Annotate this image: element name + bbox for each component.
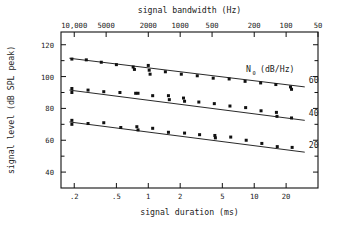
x-axis-title-top: signal bandwidth (Hz) [138,5,242,15]
fit-line-n0-20 [69,122,304,152]
legend-title-n: N [246,64,251,74]
x-tick-label-bottom: 1 [146,192,150,201]
data-point-n0-40 [275,115,278,118]
data-point-n0-40 [228,105,231,108]
data-point-n0-60 [290,88,293,91]
data-point-n0-60 [115,63,118,66]
y-tick-label: 120 [41,41,54,50]
data-point-n0-40 [118,91,121,94]
data-point-n0-20 [291,146,294,149]
data-point-n0-60 [85,58,88,61]
data-point-n0-40 [182,97,185,100]
data-point-n0-40 [70,87,73,90]
data-point-n0-20 [151,127,154,130]
x-axis-title-bottom: signal duration (ms) [140,207,239,217]
data-point-n0-40 [183,100,186,103]
data-point-n0-20 [260,142,263,145]
x-tick-label-top: 1000 [172,21,189,30]
x-tick-label-top: 5000 [97,21,114,30]
data-point-n0-20 [135,125,138,128]
data-point-n0-40 [167,94,170,97]
series-label-n0-20: 20 [309,140,319,150]
data-point-n0-20 [167,131,170,134]
data-point-n0-20 [137,128,140,131]
x-tick-label-top: 10,000 [61,21,87,30]
plot-frame [61,32,318,188]
legend-title-subscript: 0 [253,70,256,76]
data-point-n0-20 [198,133,201,136]
data-point-n0-40 [213,102,216,105]
x-tick-label-top: 500 [206,21,219,30]
data-point-n0-40 [168,98,171,101]
data-point-n0-60 [133,68,136,71]
data-point-n0-40 [197,101,200,104]
data-point-n0-40 [260,109,263,112]
data-point-n0-40 [151,94,154,97]
data-point-n0-20 [119,126,122,129]
data-point-n0-20 [276,145,279,148]
x-tick-label-top: 100 [280,21,293,30]
data-point-n0-20 [70,123,73,126]
data-point-n0-20 [245,139,248,142]
y-tick-label: 40 [45,168,54,177]
legend-title-units: (dB/Hz) [260,64,295,74]
data-point-n0-60 [196,74,199,77]
data-point-n0-20 [229,136,232,139]
x-tick-label-bottom: .2 [70,192,79,201]
series-label-n0-40: 40 [309,108,319,118]
fit-line-n0-40 [69,90,304,120]
data-point-n0-20 [87,122,90,125]
data-point-n0-40 [275,111,278,114]
x-tick-label-bottom: 10 [250,192,259,201]
data-point-n0-40 [87,89,90,92]
y-tick-label: 100 [41,73,54,82]
data-point-n0-40 [137,92,140,95]
y-tick-label: 60 [45,136,54,145]
signal-level-vs-duration-chart: .2.5125102010,00050002000100050020010050… [0,0,345,235]
data-point-n0-60 [212,77,215,80]
data-point-n0-40 [102,90,105,93]
data-point-n0-60 [259,81,262,84]
data-point-n0-20 [214,136,217,139]
data-point-n0-60 [180,73,183,76]
x-tick-label-bottom: 20 [282,192,291,201]
figure-container: .2.5125102010,00050002000100050020010050… [0,0,345,235]
x-tick-label-bottom: 2 [178,192,182,201]
x-tick-label-bottom: .5 [112,192,121,201]
data-point-n0-60 [244,80,247,83]
data-point-n0-40 [290,116,293,119]
series-label-n0-60: 60 [309,75,319,85]
data-point-n0-60 [149,73,152,76]
data-point-n0-60 [148,69,151,72]
data-point-n0-60 [164,70,167,73]
x-tick-label-top: 50 [314,21,323,30]
y-axis-title: signal level (dB SPL peak) [6,46,16,174]
data-point-n0-20 [70,119,73,122]
data-point-n0-60 [228,77,231,80]
data-point-n0-20 [183,132,186,135]
data-point-n0-60 [274,83,277,86]
x-tick-label-bottom: 5 [220,192,224,201]
x-tick-label-top: 2000 [140,21,157,30]
x-tick-label-top: 200 [248,21,261,30]
y-tick-label: 80 [45,104,54,113]
data-point-n0-40 [70,91,73,94]
data-point-n0-20 [102,121,105,124]
data-point-n0-60 [147,64,150,67]
data-point-n0-40 [244,106,247,109]
data-point-n0-60 [100,61,103,64]
data-point-n0-60 [70,58,73,61]
